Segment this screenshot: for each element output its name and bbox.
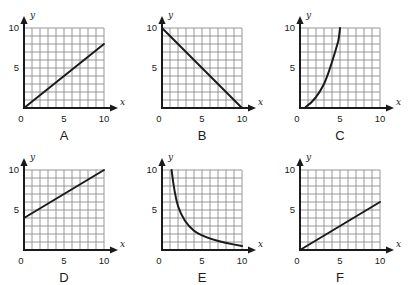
graph-panel-c: y x 0 5 10 5 10 C	[276, 0, 414, 142]
y-tick-5: 5	[152, 204, 157, 215]
x-tick-0: 0	[18, 113, 23, 124]
plot-curve-e	[172, 170, 242, 246]
x-tick-5: 5	[337, 255, 342, 266]
x-axis-arrow-icon	[110, 104, 118, 111]
x-axis-arrow-icon	[248, 246, 256, 253]
y-axis-arrow-icon	[296, 16, 303, 24]
y-axis-arrow-icon	[158, 16, 165, 24]
gridlines-a	[24, 28, 104, 108]
graph-panel-b: y x 0 5 10 5 10 B	[138, 0, 276, 142]
x-tick-0: 0	[156, 113, 161, 124]
x-axis-arrow-icon	[386, 246, 394, 253]
x-tick-0: 0	[156, 255, 161, 266]
x-axis-arrow-icon	[110, 246, 118, 253]
plot-curve-c	[306, 28, 340, 107]
y-axis-label: y	[305, 152, 312, 162]
y-axis-label: y	[167, 152, 174, 162]
y-axis-arrow-icon	[296, 158, 303, 166]
x-tick-5: 5	[61, 255, 66, 266]
x-axis-label: x	[396, 239, 401, 249]
x-tick-5: 5	[61, 113, 66, 124]
panel-letter-f: F	[336, 270, 344, 284]
x-tick-5: 5	[199, 113, 204, 124]
x-tick-10: 10	[237, 113, 248, 124]
y-tick-10: 10	[284, 22, 295, 33]
x-tick-0: 0	[294, 113, 299, 124]
x-axis-arrow-icon	[386, 104, 394, 111]
y-axis-label: y	[29, 152, 36, 162]
y-tick-10: 10	[8, 22, 19, 33]
y-tick-10: 10	[8, 164, 19, 175]
y-axis-label: y	[305, 10, 312, 20]
y-axis-label: y	[167, 10, 174, 20]
y-tick-10: 10	[284, 164, 295, 175]
graph-panel-grid: y x 0 5 10 5 10 A	[0, 0, 414, 284]
y-tick-5: 5	[152, 62, 157, 73]
panel-letter-a: A	[60, 128, 69, 142]
panel-letter-b: B	[198, 128, 207, 142]
x-tick-5: 5	[337, 113, 342, 124]
y-axis-arrow-icon	[20, 158, 27, 166]
y-tick-5: 5	[14, 62, 19, 73]
x-tick-10: 10	[99, 113, 110, 124]
y-tick-10: 10	[146, 164, 157, 175]
y-axis-arrow-icon	[20, 16, 27, 24]
graph-panel-a: y x 0 5 10 5 10 A	[0, 0, 138, 142]
graph-panel-d: y x 0 5 10 5 10 D	[0, 142, 138, 284]
panel-letter-c: C	[335, 128, 344, 142]
x-tick-5: 5	[199, 255, 204, 266]
x-tick-10: 10	[237, 255, 248, 266]
x-tick-10: 10	[99, 255, 110, 266]
x-axis-arrow-icon	[248, 104, 256, 111]
x-axis-label: x	[396, 97, 401, 107]
y-tick-10: 10	[146, 22, 157, 33]
x-tick-0: 0	[294, 255, 299, 266]
graph-panel-f: y x 0 5 10 5 10 F	[276, 142, 414, 284]
x-axis-label: x	[258, 97, 263, 107]
x-tick-10: 10	[375, 255, 386, 266]
x-axis-label: x	[120, 97, 125, 107]
y-tick-5: 5	[14, 204, 19, 215]
gridlines-c	[300, 28, 380, 108]
x-tick-0: 0	[18, 255, 23, 266]
y-axis-arrow-icon	[158, 158, 165, 166]
y-tick-5: 5	[290, 204, 295, 215]
y-tick-5: 5	[290, 62, 295, 73]
graph-panel-e: y x 0 5 10 5 10 E	[138, 142, 276, 284]
x-axis-label: x	[120, 239, 125, 249]
panel-letter-e: E	[198, 270, 207, 284]
figure-sheet: y x 0 5 10 5 10 A	[0, 0, 414, 285]
panel-letter-d: D	[59, 270, 68, 284]
y-axis-label: y	[29, 10, 36, 20]
x-tick-10: 10	[375, 113, 386, 124]
x-axis-label: x	[258, 239, 263, 249]
